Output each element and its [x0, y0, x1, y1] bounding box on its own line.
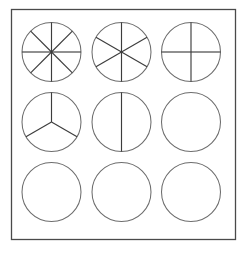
circle-outline	[92, 163, 151, 222]
figure-canvas	[0, 0, 249, 253]
circle-outline	[22, 163, 81, 222]
circle-grid	[22, 23, 221, 222]
fraction-circle	[92, 23, 151, 82]
sector-divider-line	[96, 37, 122, 52]
fraction-circle	[22, 163, 81, 222]
fraction-circles-figure	[0, 0, 249, 253]
sector-divider-line	[52, 52, 73, 73]
sector-divider-line	[52, 31, 73, 52]
fraction-circle	[162, 93, 221, 152]
sector-divider-line	[26, 122, 52, 137]
sector-divider-line	[122, 52, 148, 67]
fraction-circle	[162, 23, 221, 82]
sector-divider-line	[96, 52, 122, 67]
fraction-circle	[92, 163, 151, 222]
circle-outline	[162, 163, 221, 222]
fraction-circle	[92, 93, 151, 152]
fraction-circle	[162, 163, 221, 222]
sector-divider-line	[31, 52, 52, 73]
fraction-circle	[22, 23, 81, 82]
circle-outline	[162, 93, 221, 152]
sector-divider-line	[31, 31, 52, 52]
figure-border	[12, 10, 236, 240]
sector-divider-line	[52, 122, 78, 137]
fraction-circle	[22, 93, 81, 152]
sector-divider-line	[122, 37, 148, 52]
